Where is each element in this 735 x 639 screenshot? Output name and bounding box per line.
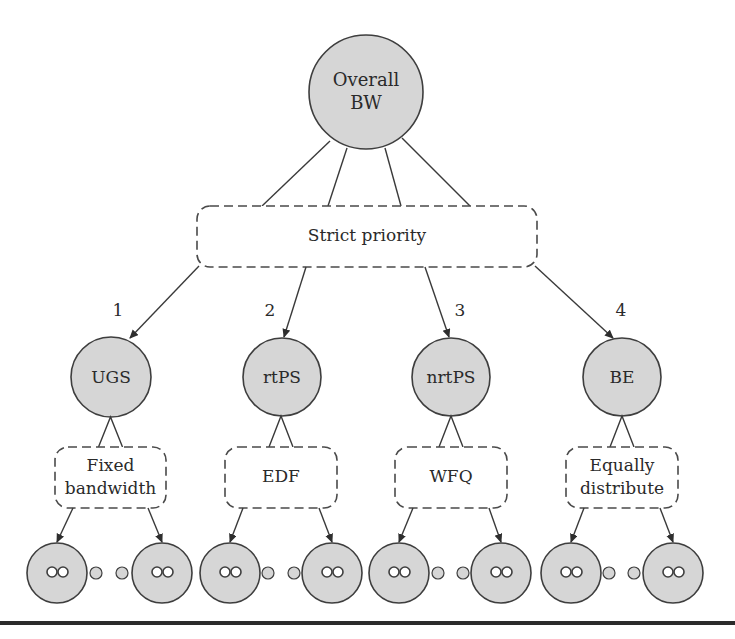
flow-arrow xyxy=(57,508,73,542)
root-link xyxy=(385,148,401,206)
ellipsis-dot xyxy=(628,567,640,579)
flow-arrow xyxy=(660,508,673,542)
policy-label-line2: bandwidth xyxy=(65,478,157,498)
flow-packet-icon xyxy=(322,567,332,577)
bandwidth-allocation-diagram: Strict priority Overall BW 1UGSFixedband… xyxy=(0,0,735,639)
ellipsis-dot xyxy=(90,567,102,579)
flow-arrow xyxy=(319,508,332,542)
strict-priority-scheduler: Strict priority xyxy=(197,206,537,267)
priority-number: 3 xyxy=(455,300,466,320)
flow-packet-icon xyxy=(389,567,399,577)
policy-label: WFQ xyxy=(429,466,472,486)
priority-arrow xyxy=(130,266,199,338)
ellipsis-dot xyxy=(603,567,615,579)
root-link xyxy=(328,148,347,206)
flow-packet-icon xyxy=(663,567,673,577)
priority-arrow xyxy=(425,267,449,337)
root-link xyxy=(402,138,470,206)
class-be: 4BEEquallydistribute xyxy=(535,266,703,603)
class-nrtps: 3nrtPSWFQ xyxy=(369,267,531,603)
flow-arrow xyxy=(489,508,501,542)
strict-priority-label: Strict priority xyxy=(308,225,427,245)
class-rtps: 2rtPSEDF xyxy=(200,267,362,603)
policy-link xyxy=(269,416,293,447)
ellipsis-dot xyxy=(116,567,128,579)
priority-arrow xyxy=(535,266,613,338)
ellipsis-dot xyxy=(262,567,274,579)
class-label: rtPS xyxy=(263,367,301,387)
priority-number: 4 xyxy=(616,300,627,320)
flow-arrow xyxy=(399,508,413,542)
flow-packet-icon xyxy=(502,567,512,577)
service-classes: 1UGSFixedbandwidth2rtPSEDF3nrtPSWFQ4BEEq… xyxy=(27,266,703,603)
ellipsis-dot xyxy=(432,567,444,579)
root-label-line2: BW xyxy=(350,92,382,113)
flow-packet-icon xyxy=(231,567,241,577)
priority-number: 2 xyxy=(265,300,276,320)
flow-packet-icon xyxy=(220,567,230,577)
flow-packet-icon xyxy=(47,567,57,577)
policy-label-line1: Fixed xyxy=(87,455,135,475)
flow-packet-icon xyxy=(58,567,68,577)
ellipsis-dot xyxy=(457,567,469,579)
root-label-line1: Overall xyxy=(333,69,400,90)
ellipsis-dot xyxy=(288,567,300,579)
priority-arrow xyxy=(284,267,306,337)
policy-label: EDF xyxy=(262,466,300,486)
flow-packet-icon xyxy=(163,567,173,577)
flow-packet-icon xyxy=(572,567,582,577)
policy-label-line1: Equally xyxy=(590,455,655,475)
class-label: BE xyxy=(610,367,635,387)
priority-number: 1 xyxy=(113,300,124,320)
policy-label-line2: distribute xyxy=(580,478,664,498)
flow-arrow xyxy=(571,508,584,542)
policy-link xyxy=(99,417,123,447)
flow-packet-icon xyxy=(400,567,410,577)
root-node-overall-bw: Overall BW xyxy=(309,35,423,149)
flow-arrow xyxy=(230,508,243,542)
flow-packet-icon xyxy=(491,567,501,577)
policy-link xyxy=(610,416,634,447)
class-label: nrtPS xyxy=(427,367,476,387)
policy-link xyxy=(439,416,463,447)
flow-packet-icon xyxy=(674,567,684,577)
flow-packet-icon xyxy=(333,567,343,577)
flow-arrow xyxy=(148,508,162,542)
bottom-rule xyxy=(0,621,735,625)
class-ugs: 1UGSFixedbandwidth xyxy=(27,266,199,603)
flow-packet-icon xyxy=(152,567,162,577)
flow-packet-icon xyxy=(561,567,571,577)
root-link xyxy=(262,141,330,206)
class-label: UGS xyxy=(91,367,131,387)
